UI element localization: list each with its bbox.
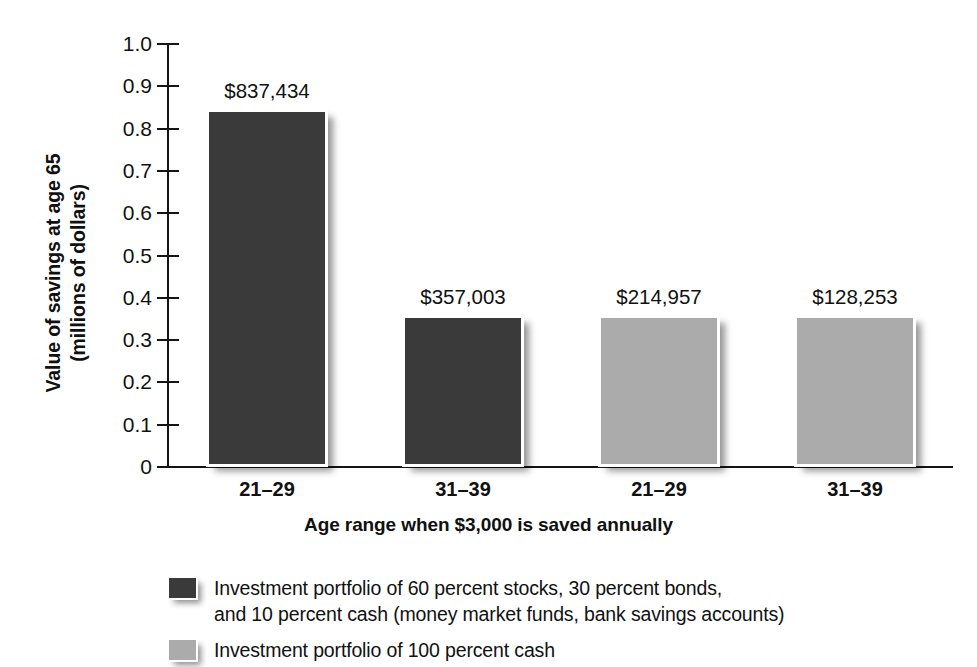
legend-swatch-light: [167, 638, 198, 662]
y-axis-tick: [157, 339, 179, 341]
y-axis-tick: [157, 170, 179, 172]
y-axis-tick-label: 0.7: [82, 160, 152, 181]
y-axis-tick: [157, 466, 179, 468]
bar-value-label: $837,434: [162, 81, 372, 102]
bar: [794, 315, 916, 467]
y-axis-tick-label: 1.0: [82, 33, 152, 54]
y-axis-tick-label: 0.6: [82, 202, 152, 223]
y-axis-tick-label: 0.8: [82, 118, 152, 139]
y-axis-tick: [157, 43, 179, 45]
y-axis-tick: [157, 297, 179, 299]
bar-chart-figure: Value of savings at age 65 (millions of …: [0, 0, 977, 667]
y-axis-tick-label: 0.2: [82, 371, 152, 392]
bar-value-label: $214,957: [554, 287, 764, 308]
chart-legend: Investment portfolio of 60 percent stock…: [167, 576, 977, 664]
legend-swatch-dark: [167, 576, 198, 600]
bar: [402, 315, 524, 467]
bar-value-label: $357,003: [358, 287, 568, 308]
legend-label-light: Investment portfolio of 100 percent cash: [214, 638, 555, 664]
legend-item-dark: Investment portfolio of 60 percent stock…: [167, 576, 977, 627]
legend-label-dark-line-2: and 10 percent cash (money market funds,…: [214, 603, 784, 625]
x-axis-category-label: 31–39: [750, 479, 960, 499]
y-axis-title-line-1: Value of savings at age 65: [41, 103, 66, 443]
y-axis-tick-label: 0.4: [82, 287, 152, 308]
y-axis-tick-label: 0.9: [82, 75, 152, 96]
bar: [598, 315, 720, 467]
bar-value-label: $128,253: [750, 287, 960, 308]
x-axis-title: Age range when $3,000 is saved annually: [0, 514, 977, 536]
x-axis-category-label: 21–29: [554, 479, 764, 499]
legend-label-dark: Investment portfolio of 60 percent stock…: [214, 576, 784, 627]
y-axis-tick: [157, 212, 179, 214]
y-axis-tick-label: 0.1: [82, 414, 152, 435]
legend-item-light: Investment portfolio of 100 percent cash: [167, 638, 977, 664]
bar: [206, 109, 328, 467]
x-axis-category-label: 21–29: [162, 479, 372, 499]
y-axis-tick: [157, 255, 179, 257]
legend-label-dark-line-1: Investment portfolio of 60 percent stock…: [214, 577, 722, 599]
y-axis-tick: [157, 381, 179, 383]
x-axis-category-label: 31–39: [358, 479, 568, 499]
legend-label-light-line-1: Investment portfolio of 100 percent cash: [214, 639, 555, 661]
y-axis-tick-label: 0.3: [82, 329, 152, 350]
y-axis-tick-label: 0.5: [82, 245, 152, 266]
y-axis-tick: [157, 424, 179, 426]
y-axis-tick-label: 0: [82, 456, 152, 477]
y-axis-tick: [157, 128, 179, 130]
